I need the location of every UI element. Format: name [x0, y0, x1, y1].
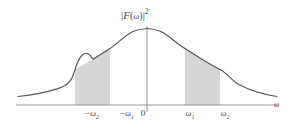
tick-label-omega-1: ω1	[185, 108, 194, 120]
y-axis-title-function: F	[123, 9, 130, 21]
spectral-density-curve	[18, 29, 277, 97]
tick-subscript: 1	[192, 114, 195, 120]
tick-label-origin: 0	[141, 108, 146, 118]
y-axis-title-exponent: 2	[145, 7, 149, 16]
tick-subscript: 2	[227, 114, 230, 120]
tick-subscript: 2	[96, 114, 99, 120]
shaded-band-positive	[185, 49, 220, 105]
tick-label-neg-omega-1: −ω1	[120, 108, 134, 120]
y-axis-title: |F(ω)|2	[121, 8, 149, 21]
tick-label-omega-2: ω2	[220, 108, 229, 120]
x-axis-name: ω	[274, 101, 279, 109]
tick-subscript: 1	[131, 114, 134, 120]
tick-label-neg-omega-2: −ω2	[85, 108, 99, 120]
tick-symbol: 0	[141, 108, 146, 118]
spectral-density-figure: |F(ω)|2 −ω2 −ω1 0 ω1 ω2 ω	[0, 0, 295, 131]
